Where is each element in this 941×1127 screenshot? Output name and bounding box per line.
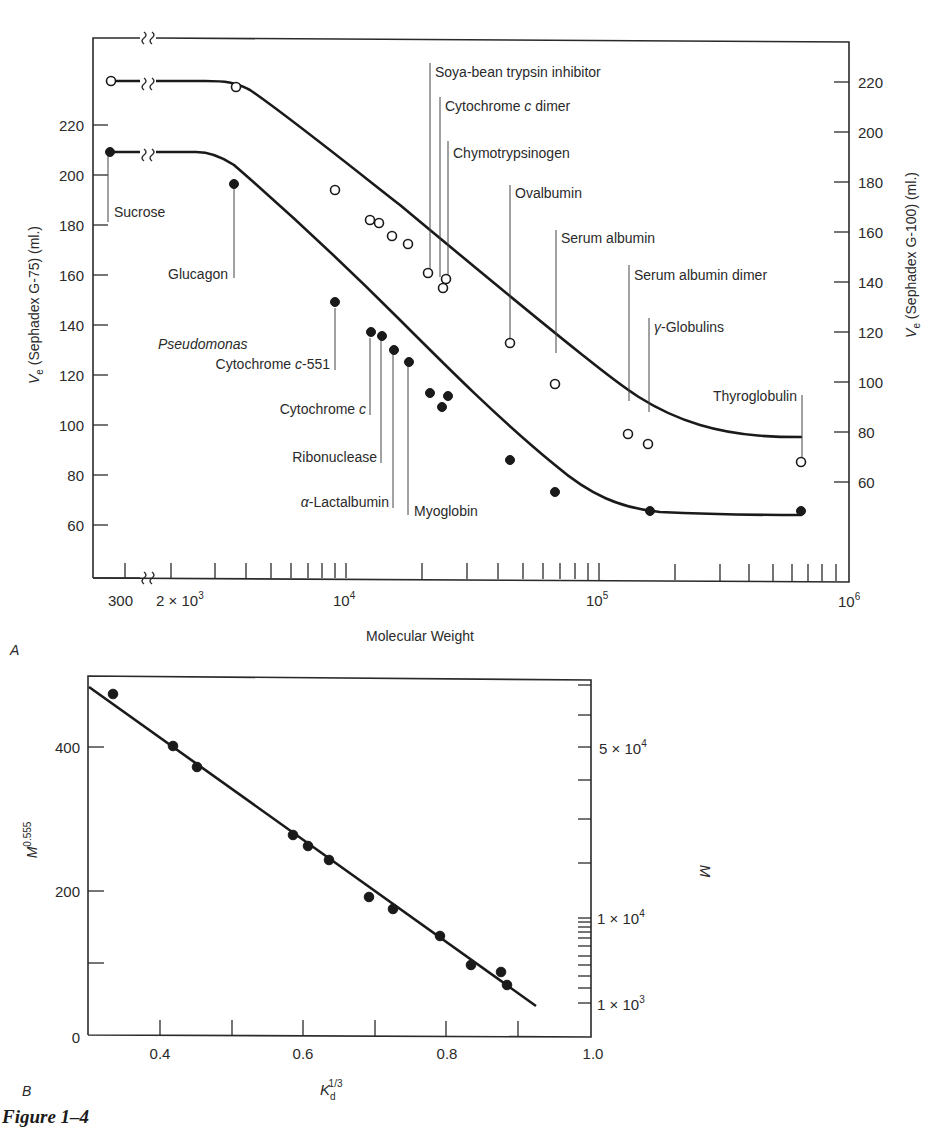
b-x-axis-label: Kd1/3 — [320, 1078, 343, 1102]
y-tick-label: 140 — [858, 274, 883, 291]
panel-a-frame-left — [93, 38, 140, 578]
panel-b-frame — [88, 676, 591, 1037]
panel-a-frame — [93, 38, 849, 582]
x-tick-label: 2 × 103 — [156, 590, 204, 609]
label-pseudomonas: Pseudomonas — [158, 336, 248, 352]
y-tick-label: 60 — [858, 474, 875, 491]
y-tick-label: 220 — [59, 117, 84, 134]
leader-lines — [108, 63, 802, 515]
y-tick-label: 140 — [59, 317, 84, 334]
annotations: Sucrose Glucagon Pseudomonas Cytochrome … — [114, 64, 797, 519]
y-tick-label: 400 — [55, 739, 80, 756]
label-cytochrome-c551: Cytochrome c-551 — [216, 356, 331, 372]
x-axis-label: Molecular Weight — [366, 628, 474, 644]
b-x-ticks — [160, 1020, 518, 1036]
right-y-tick-labels: 220 200 180 160 140 120 100 80 60 — [858, 74, 883, 491]
y-tick-label: 160 — [858, 224, 883, 241]
x-tick-label: 105 — [586, 590, 609, 609]
y-tick-label: 0 — [72, 1029, 80, 1046]
b-left-y-tick-labels: 400 200 0 — [55, 739, 80, 1046]
y-tick-label: 5 × 104 — [599, 738, 647, 757]
label-serum-albumin-dimer: Serum albumin dimer — [634, 267, 767, 283]
y-tick-label: 80 — [858, 424, 875, 441]
y-tick-label: 120 — [858, 324, 883, 341]
x-tick-label: 0.8 — [437, 1045, 458, 1062]
panel-b-label: B — [22, 1083, 31, 1099]
y-tick-label: 60 — [67, 517, 84, 534]
y-tick-label: 1 × 104 — [597, 908, 645, 927]
panel-b: 400 200 0 M0.555 0.4 0.6 0.8 1.0 Kd1/3 B — [22, 676, 714, 1102]
label-ribonuclease: Ribonuclease — [292, 449, 377, 465]
y-tick-label: 200 — [55, 883, 80, 900]
label-ovalbumin: Ovalbumin — [515, 185, 582, 201]
panel-a: 220 200 180 160 140 120 100 80 60 Ve (Se… — [9, 32, 922, 658]
y-tick-label: 1 × 103 — [597, 994, 645, 1013]
y-tick-label: 160 — [59, 267, 84, 284]
y-tick-label: 180 — [858, 174, 883, 191]
label-soya-bean: Soya-bean trypsin inhibitor — [435, 64, 601, 80]
x-tick-labels: 300 2 × 103 104 105 106 — [108, 590, 861, 610]
label-serum-albumin: Serum albumin — [561, 230, 655, 246]
axis-break-icon — [142, 32, 154, 584]
right-y-ticks — [834, 82, 849, 482]
b-right-y-tick-labels: 5 × 104 1 × 104 1 × 103 — [597, 738, 647, 1013]
label-globulins: γ-Globulins — [654, 319, 724, 335]
label-sucrose: Sucrose — [114, 204, 166, 220]
y-tick-label: 180 — [59, 217, 84, 234]
label-glucagon: Glucagon — [168, 266, 228, 282]
y-tick-label: 120 — [59, 367, 84, 384]
x-tick-label: 106 — [838, 591, 861, 610]
left-y-ticks — [93, 125, 108, 525]
y-tick-label: 200 — [858, 124, 883, 141]
right-y-axis-label: Ve (Sephadex G-100) (ml.) — [903, 172, 922, 338]
figure-canvas: 220 200 180 160 140 120 100 80 60 Ve (Se… — [0, 0, 941, 1127]
x-tick-label: 104 — [333, 590, 356, 609]
b-y-axis-label: M0.555 — [22, 821, 40, 858]
x-tick-label: 0.4 — [150, 1045, 171, 1062]
label-myoglobin: Myoglobin — [414, 503, 478, 519]
label-chymotrypsinogen: Chymotrypsinogen — [453, 145, 570, 161]
g100-curve — [110, 81, 802, 437]
b-right-y-ticks — [578, 685, 591, 1003]
x-tick-label: 0.6 — [293, 1045, 314, 1062]
y-tick-label: 100 — [59, 417, 84, 434]
y-tick-label: 200 — [59, 167, 84, 184]
figure-caption: Figure 1–4 — [1, 1106, 89, 1127]
y-tick-label: 220 — [858, 74, 883, 91]
b-right-axis-label: M — [697, 865, 714, 878]
y-tick-label: 100 — [858, 374, 883, 391]
x-tick-label: 1.0 — [583, 1045, 604, 1062]
label-lactalbumin: α-Lactalbumin — [301, 494, 389, 510]
left-y-axis-label: Ve (Sephadex G-75) (ml.) — [26, 226, 45, 384]
x-tick-label: 300 — [108, 592, 133, 609]
b-left-y-ticks — [88, 747, 104, 963]
panel-a-label: A — [9, 642, 19, 658]
b-x-tick-labels: 0.4 0.6 0.8 1.0 — [150, 1045, 604, 1062]
y-tick-label: 80 — [67, 467, 84, 484]
label-cytochrome-c-dimer: Cytochrome c dimer — [445, 98, 571, 114]
label-thyroglobulin: Thyroglobulin — [713, 388, 797, 404]
label-cytochrome-c: Cytochrome c — [280, 401, 366, 417]
left-y-tick-labels: 220 200 180 160 140 120 100 80 60 — [59, 117, 84, 534]
